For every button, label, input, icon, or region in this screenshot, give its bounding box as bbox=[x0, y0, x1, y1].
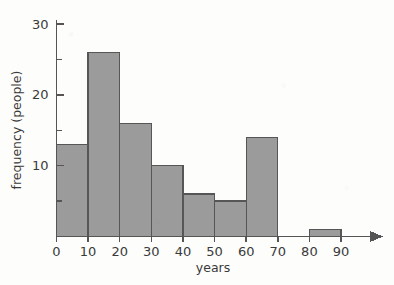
x-axis-tick-label: 0 bbox=[52, 244, 60, 259]
x-axis-tick-label: 50 bbox=[206, 244, 223, 259]
y-axis-tick-label: 10 bbox=[32, 158, 49, 173]
chart-background bbox=[0, 0, 394, 285]
x-axis-tick-label: 80 bbox=[301, 244, 318, 259]
x-axis-tick-label: 10 bbox=[80, 244, 97, 259]
x-axis-tick-label: 20 bbox=[111, 244, 128, 259]
x-axis-tick-label: 30 bbox=[143, 244, 160, 259]
x-axis-tick-label: 70 bbox=[270, 244, 287, 259]
histogram-bar bbox=[246, 137, 278, 236]
histogram-chart: 102030 0102030405060708090 years frequen… bbox=[0, 0, 394, 285]
x-axis-tick-label: 60 bbox=[238, 244, 255, 259]
histogram-bar bbox=[57, 144, 89, 236]
x-axis-tick-label: 90 bbox=[333, 244, 350, 259]
histogram-bar bbox=[183, 194, 215, 237]
histogram-bar bbox=[151, 166, 183, 237]
x-axis-tick-label: 40 bbox=[175, 244, 192, 259]
histogram-figure: 102030 0102030405060708090 years frequen… bbox=[0, 0, 394, 285]
histogram-bar bbox=[120, 123, 152, 236]
histogram-bar bbox=[215, 201, 247, 236]
y-axis-tick-label: 20 bbox=[32, 87, 49, 102]
histogram-bar bbox=[88, 52, 120, 236]
y-axis-title: frequency (people) bbox=[9, 71, 24, 190]
x-axis-title: years bbox=[196, 260, 230, 275]
histogram-bar bbox=[309, 229, 341, 236]
y-axis-tick-label: 30 bbox=[32, 17, 49, 32]
